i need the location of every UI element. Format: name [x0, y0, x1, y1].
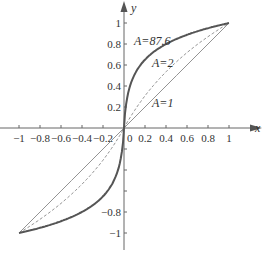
y-tick-label: 0.2 [107, 101, 121, 113]
x-tick-label: −0.8 [30, 132, 50, 144]
y-tick-label: 0.6 [107, 59, 121, 71]
annotation-a2: A=2 [151, 56, 173, 70]
x-tick-label: 0.6 [180, 132, 194, 144]
x-tick-label: 0.2 [138, 132, 152, 144]
annotation-a1: A=1 [151, 96, 173, 110]
y-tick-label: 0.8 [107, 38, 121, 50]
x-axis-label: x [254, 121, 261, 135]
x-tick-label: −1 [13, 132, 25, 144]
x-tick-label: 0.8 [201, 132, 215, 144]
y-tick-label: 0.4 [107, 80, 121, 92]
y-axis-label: y [130, 1, 137, 15]
y-axis-arrow-icon [121, 1, 128, 12]
y-tick-label: 1 [116, 17, 122, 29]
axes [0, 4, 255, 250]
annotation-a876: A=87.6 [133, 34, 170, 48]
x-tick-label: 1 [226, 132, 232, 144]
chart: x y −1−0.8−0.6−0.4−0.200.20.40.60.810.20… [0, 0, 266, 256]
x-tick-label: 0 [127, 132, 133, 144]
y-tick-label: −1 [109, 227, 121, 239]
x-tick-label: −0.4 [72, 132, 92, 144]
x-tick-label: 0.4 [159, 132, 173, 144]
x-tick-label: −0.6 [51, 132, 71, 144]
y-tick-label: −0.8 [101, 206, 121, 218]
